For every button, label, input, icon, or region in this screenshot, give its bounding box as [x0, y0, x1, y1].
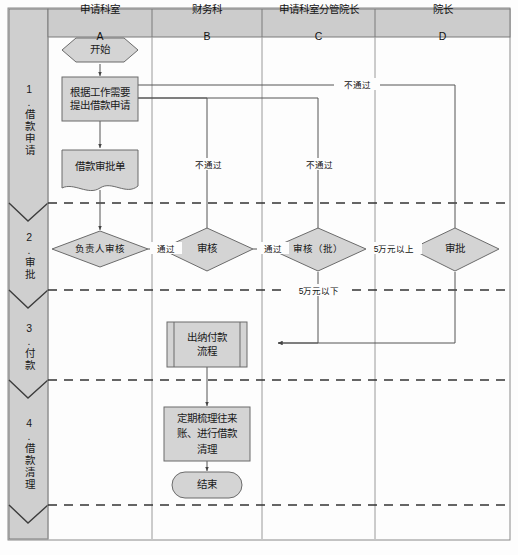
- node-request[interactable]: [62, 77, 138, 121]
- edge-label-over-50k: 5万元以上: [366, 242, 422, 254]
- column-header-A-code: A: [96, 30, 103, 42]
- flowchart-canvas: 申请科室 A 财务科 B 申请科室分管院长 C 院长 D 1. 借款申请 2. …: [0, 0, 518, 555]
- flowchart-svg: [0, 0, 518, 555]
- column-header-C: 申请科室分管院长 C: [262, 9, 375, 37]
- edge-label-under-50k: 5万元以下: [288, 284, 350, 296]
- node-end[interactable]: [172, 472, 242, 498]
- column-header-D-code: D: [439, 30, 447, 42]
- edge-label-pass-a-to-b: 通过: [150, 242, 182, 254]
- node-review-dept-head[interactable]: [52, 231, 148, 267]
- edge-label-reject-vice-president: 不通过: [296, 158, 342, 170]
- edge-label-reject-president: 不通过: [334, 78, 380, 90]
- column-header-A-name: 申请科室: [80, 3, 120, 15]
- column-header-D: 院长 D: [375, 9, 510, 37]
- edge-label-reject-finance: 不通过: [185, 158, 231, 170]
- stage-column: [9, 9, 48, 539]
- column-header-C-name: 申请科室分管院长: [279, 3, 359, 15]
- node-approve-president[interactable]: [411, 228, 499, 271]
- column-header-B-code: B: [203, 30, 210, 42]
- column-header-D-name: 院长: [433, 3, 453, 15]
- node-periodic-clearing[interactable]: [164, 407, 250, 461]
- edge-label-pass-b-to-c: 通过: [257, 242, 289, 254]
- column-header-C-code: C: [315, 30, 323, 42]
- column-header-B-name: 财务科: [192, 3, 222, 15]
- connectors: [100, 64, 455, 471]
- node-loan-form[interactable]: [62, 150, 138, 191]
- column-header-B: 财务科 B: [152, 9, 262, 37]
- node-cashier-payment[interactable]: [167, 322, 247, 367]
- column-header-A: 申请科室 A: [48, 9, 152, 37]
